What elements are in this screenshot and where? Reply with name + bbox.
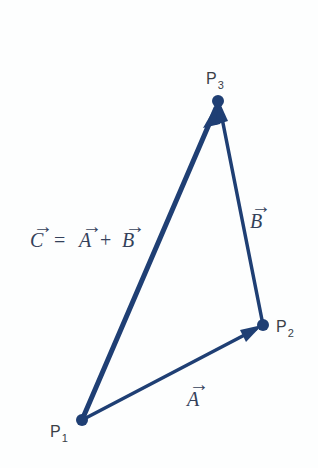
point-p3-label: P3 — [206, 70, 224, 91]
svg-text:A: A — [77, 229, 92, 251]
point-p2-label: P2 — [276, 318, 294, 339]
svg-text:+: + — [100, 229, 111, 251]
svg-text:A: A — [185, 388, 200, 410]
point-p2-dot — [257, 319, 269, 331]
point-p1-dot — [76, 414, 88, 426]
diagram-svg: P3 P2 P1 → B → A → C = → A + → B — [0, 0, 318, 468]
svg-text:=: = — [54, 229, 65, 251]
vector-a — [82, 325, 262, 420]
equation-c-equals-a-plus-b: → C = → A + → B — [30, 215, 145, 251]
svg-text:B: B — [122, 229, 134, 251]
svg-text:C: C — [30, 229, 44, 251]
vector-a-label: → A — [185, 373, 209, 410]
vector-diagram: P3 P2 P1 → B → A → C = → A + → B — [0, 0, 318, 468]
point-p3-dot — [212, 95, 224, 107]
vector-b-label: → B — [250, 195, 271, 232]
point-p1-label: P1 — [50, 423, 68, 444]
svg-text:B: B — [250, 210, 262, 232]
